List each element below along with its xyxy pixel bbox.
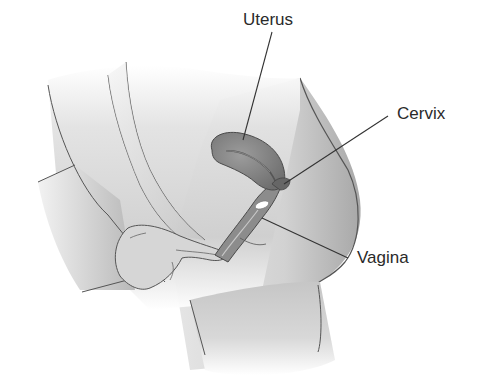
anatomy-illustration [0,0,482,388]
label-cervix: Cervix [397,105,445,122]
label-vagina: Vagina [357,249,409,266]
diagram-canvas: Uterus Cervix Vagina [0,0,482,388]
label-uterus: Uterus [243,11,293,28]
right-thigh [190,282,335,375]
